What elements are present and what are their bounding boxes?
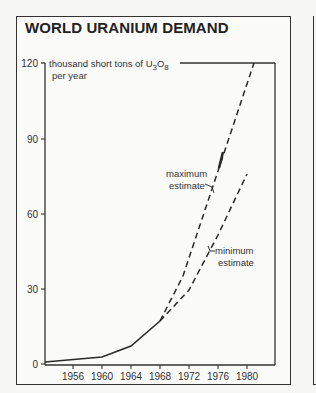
unit-label-line2: per year xyxy=(52,70,87,81)
maximum-estimate-line xyxy=(160,63,254,321)
chart-plot: 120 90 60 30 0 1956 1960 1964 1968 1972 … xyxy=(0,0,316,393)
x-label-1980: 1980 xyxy=(236,371,259,382)
x-tick-labels: 1956 1960 1964 1968 1972 1976 1980 xyxy=(62,371,259,382)
x-label-1964: 1964 xyxy=(120,371,143,382)
y-label-0: 0 xyxy=(32,359,38,370)
max-estimate-label-2: estimate xyxy=(169,180,205,191)
x-label-1956: 1956 xyxy=(62,371,85,382)
min-estimate-label-1: minimum xyxy=(215,245,254,256)
plot-axes xyxy=(41,63,275,365)
max-estimate-label-1: maximum xyxy=(166,168,207,179)
x-label-1968: 1968 xyxy=(149,371,172,382)
min-estimate-label-2: estimate xyxy=(218,257,254,268)
y-label-60: 60 xyxy=(27,209,39,220)
x-label-1972: 1972 xyxy=(178,371,201,382)
y-label-120: 120 xyxy=(21,58,38,69)
x-label-1976: 1976 xyxy=(207,371,230,382)
y-label-30: 30 xyxy=(27,284,39,295)
x-label-1960: 1960 xyxy=(91,371,114,382)
y-tick-labels: 120 90 60 30 0 xyxy=(21,58,38,370)
actual-demand-line xyxy=(45,321,160,362)
y-label-90: 90 xyxy=(27,134,39,145)
